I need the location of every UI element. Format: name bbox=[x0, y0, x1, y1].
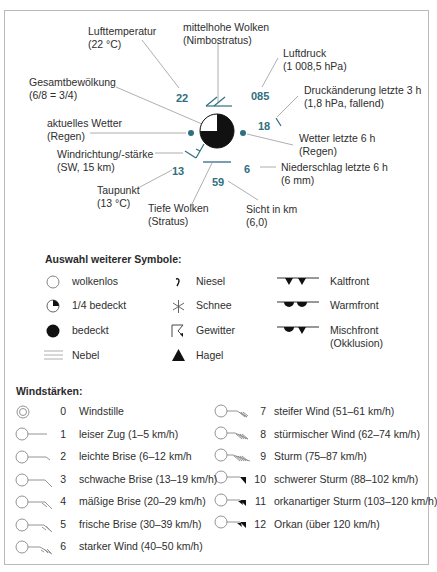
wind-bft-3: 3 bbox=[52, 473, 66, 486]
wind-label-6: starker Wind (40–50 km/h) bbox=[79, 540, 203, 553]
thunderstorm-icon bbox=[171, 324, 186, 338]
label-dew-point: Taupunkt (13 °C) bbox=[97, 184, 140, 210]
wind-barbs-left-icons bbox=[0, 400, 60, 560]
wind-label-2: leichte Brise (6–12 km/h bbox=[79, 450, 192, 463]
past-weather-rain-dot-icon bbox=[240, 130, 246, 136]
wind-bft-2: 2 bbox=[52, 450, 66, 463]
wind-label-8: stürmischer Wind (62–74 km/h) bbox=[274, 428, 420, 441]
hail-triangle-icon bbox=[172, 349, 185, 361]
symbol-label-schnee: Schnee bbox=[196, 299, 232, 312]
label-pressure-change: Druckänderung letzte 3 h (1,8 hPa, falle… bbox=[304, 84, 421, 110]
wind-bft-10: 10 bbox=[252, 473, 266, 486]
symbol-label-bedeckt: bedeckt bbox=[72, 324, 109, 337]
circle-quarter-icon bbox=[46, 299, 60, 313]
wind-barb-icon bbox=[185, 144, 204, 158]
label-low-clouds: Tiefe Wolken (Stratus) bbox=[148, 202, 209, 228]
wind-bft-5: 5 bbox=[52, 518, 66, 531]
wind-label-4: mäßige Brise (20–29 km/h) bbox=[79, 495, 206, 508]
wind-label-0: Windstille bbox=[79, 405, 124, 418]
label-weather-last-6h: Wetter letzte 6 h (Regen) bbox=[299, 132, 375, 158]
wind-bft-7: 7 bbox=[252, 405, 266, 418]
wind-scale-heading: Windstärken: bbox=[16, 385, 82, 397]
wind-label-7: steifer Wind (51–61 km/h) bbox=[274, 405, 394, 418]
snow-asterisk-icon bbox=[172, 300, 185, 313]
circle-filled-icon bbox=[46, 324, 60, 338]
wind-0-calm-icon bbox=[17, 406, 29, 418]
wind-label-5: frische Brise (30–39 km/h) bbox=[79, 518, 202, 531]
wind-bft-8: 8 bbox=[252, 428, 266, 441]
wind-label-9: Sturm (75–87 km/h) bbox=[274, 450, 367, 463]
pressure-change-value: 18 bbox=[258, 120, 270, 132]
symbol-label-mischfront: Mischfront (Okklusion) bbox=[330, 324, 383, 350]
wind-barbs-right-icons bbox=[200, 400, 260, 540]
wind-label-10: schwerer Sturm (88–102 km/h) bbox=[274, 473, 418, 486]
dew-point-value: 13 bbox=[172, 165, 184, 177]
circle-empty-icon bbox=[46, 275, 60, 289]
symbol-label-kaltfront: Kaltfront bbox=[330, 275, 369, 288]
wind-bft-12: 12 bbox=[252, 518, 266, 531]
label-current-weather: aktuelles Wetter (Regen) bbox=[47, 117, 122, 143]
wind-label-3: schwache Brise (13–19 km/h) bbox=[79, 473, 217, 486]
cold-front-icon bbox=[277, 277, 319, 287]
label-total-cloud-cover: Gesamtbewölkung (6/8 = 3/4) bbox=[29, 76, 116, 102]
symbol-label-quarter: 1/4 bedeckt bbox=[72, 299, 126, 312]
wind-bft-0: 0 bbox=[52, 405, 66, 418]
label-visibility: Sicht in km (6,0) bbox=[246, 203, 297, 229]
symbol-label-niesel: Niesel bbox=[196, 275, 225, 288]
wind-bft-1: 1 bbox=[52, 428, 66, 441]
cloud-cover-circle-icon bbox=[200, 114, 234, 148]
wind-bft-11: 11 bbox=[252, 495, 266, 508]
warm-front-icon bbox=[277, 301, 319, 311]
precipitation-value: 6 bbox=[244, 163, 250, 175]
temperature-value: 22 bbox=[176, 92, 188, 104]
symbols-heading: Auswahl weiterer Symbole: bbox=[45, 253, 182, 265]
pressure-value: 085 bbox=[251, 90, 269, 102]
occluded-front-icon bbox=[277, 326, 319, 336]
wind-label-1: leiser Zug (1–5 km/h) bbox=[79, 428, 178, 441]
symbol-label-hagel: Hagel bbox=[196, 349, 223, 362]
label-air-temperature: Lufttemperatur (22 °C) bbox=[88, 25, 156, 51]
symbol-label-wolkenlos: wolkenlos bbox=[72, 275, 118, 288]
symbol-label-gewitter: Gewitter bbox=[196, 324, 235, 337]
label-wind: Windrichtung/-stärke (SW, 15 km) bbox=[57, 148, 153, 174]
label-precip-last-6h: Niederschlag letzte 6 h (6 mm) bbox=[281, 161, 388, 187]
wind-bft-6: 6 bbox=[52, 540, 66, 553]
wind-label-12: Orkan (über 120 km/h) bbox=[274, 518, 380, 531]
current-weather-rain-dot-icon bbox=[188, 130, 194, 136]
nimbostratus-icon bbox=[206, 97, 232, 106]
wind-label-11: orkanartiger Sturm (103–120 km/h) bbox=[274, 495, 437, 508]
label-mid-clouds: mittelhohe Wolken (Nimbostratus) bbox=[183, 21, 269, 47]
visibility-value: 59 bbox=[212, 176, 224, 188]
pressure-tendency-icon bbox=[276, 118, 281, 126]
wind-bft-4: 4 bbox=[52, 495, 66, 508]
wind-bft-9: 9 bbox=[252, 450, 266, 463]
label-air-pressure: Luftdruck (1 008,5 hPa) bbox=[283, 47, 347, 73]
symbol-label-nebel: Nebel bbox=[72, 349, 99, 362]
fog-lines-icon bbox=[44, 349, 64, 361]
drizzle-icon bbox=[173, 276, 183, 288]
symbol-label-warmfront: Warmfront bbox=[330, 299, 379, 312]
